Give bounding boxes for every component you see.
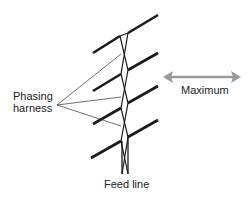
maximum-arrow-icon xyxy=(163,71,241,83)
harness-top-link xyxy=(120,33,128,36)
element-1-right xyxy=(128,15,158,33)
phasing-harness-label: Phasing harness xyxy=(13,90,53,114)
phasing-harness-label-line1: Phasing xyxy=(13,90,53,102)
element-4-right xyxy=(128,120,158,137)
element-2-right xyxy=(128,53,158,70)
phasing-harness-label-line2: harness xyxy=(13,102,53,114)
element-4-left xyxy=(91,141,121,158)
maximum-label: Maximum xyxy=(181,84,229,96)
element-2-left xyxy=(93,74,121,91)
element-1-left xyxy=(93,36,120,53)
feed-line-label: Feed line xyxy=(104,178,149,190)
phasing-harness-wires xyxy=(120,33,128,174)
element-3-right xyxy=(128,86,158,103)
harness-callout-lines xyxy=(57,54,121,126)
